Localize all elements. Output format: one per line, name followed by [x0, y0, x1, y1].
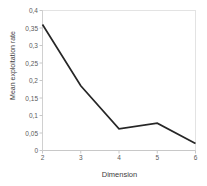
x-tick-label: 6: [186, 154, 206, 161]
x-axis-tick-labels: 23456: [0, 154, 207, 166]
data-series-line: [43, 25, 196, 144]
x-tick-label: 2: [33, 154, 53, 161]
x-axis-title: Dimension: [42, 170, 197, 179]
y-tick-label: 0,4: [16, 7, 38, 14]
y-tick-label: 0,1: [16, 112, 38, 119]
x-tick-label: 3: [71, 154, 91, 161]
y-tick-label: 0,05: [16, 130, 38, 137]
y-tick-label: 0,3: [16, 42, 38, 49]
x-tick-label: 4: [109, 154, 129, 161]
x-tick-label: 5: [147, 154, 167, 161]
chart-figure: 00,050,10,150,20,250,30,350,4 23456 Mean…: [0, 0, 207, 186]
y-tick-label: 0: [16, 147, 38, 154]
y-tick-label: 0,15: [16, 95, 38, 102]
y-tick-label: 0,25: [16, 60, 38, 67]
y-tick-label: 0,2: [16, 77, 38, 84]
y-axis-title: Mean exploitation rate: [9, 6, 16, 126]
y-tick-label: 0,35: [16, 25, 38, 32]
